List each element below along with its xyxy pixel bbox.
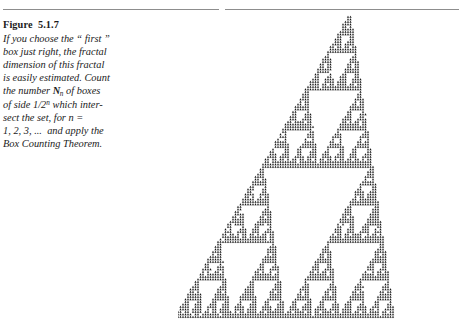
caption-line-6-post: which inter- bbox=[50, 99, 103, 110]
caption-line-3: dimension of this fractal bbox=[3, 58, 127, 71]
caption-line-4: is easily estimated. Count bbox=[3, 71, 127, 84]
figure-caption-text: If you choose the “ first ” box just rig… bbox=[3, 32, 127, 150]
caption-line-7: sect the set, for n = bbox=[3, 111, 127, 124]
caption-line-2: box just right, the fractal bbox=[3, 45, 127, 58]
caption-line-5: the number Nn of boxes bbox=[3, 84, 127, 97]
fractal-canvas bbox=[178, 12, 462, 324]
caption-line-9: Box Counting Theorem. bbox=[3, 137, 127, 150]
figure-page: Figure 5.1.7 If you choose the “ first ”… bbox=[0, 0, 462, 336]
caption-line-5-post: of boxes bbox=[63, 85, 100, 96]
caption-line-6: of side 1/2n which inter- bbox=[3, 97, 127, 110]
figure-title: Figure 5.1.7 bbox=[3, 18, 127, 31]
figure-caption-block: Figure 5.1.7 If you choose the “ first ”… bbox=[3, 18, 127, 150]
script-n-symbol: N bbox=[53, 85, 60, 96]
top-horizontal-rule bbox=[3, 9, 459, 10]
caption-line-5-pre: the number bbox=[3, 85, 53, 96]
top-rule-gap bbox=[219, 8, 225, 11]
fractal-illustration bbox=[178, 12, 462, 324]
caption-line-6-pre: of side 1/2 bbox=[3, 99, 46, 110]
caption-line-8: 1, 2, 3, ... and apply the bbox=[3, 124, 127, 137]
caption-line-1: If you choose the “ first ” bbox=[3, 32, 127, 45]
